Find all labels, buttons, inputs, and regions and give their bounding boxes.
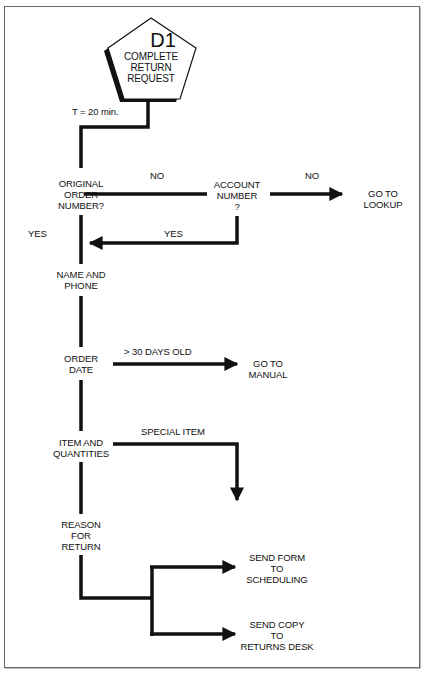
start-node-label: COMPLETE RETURN REQUEST <box>118 51 184 84</box>
node-original-order: ORIGINAL ORDER NUMBER? <box>46 178 116 211</box>
node-line: PHONE <box>48 280 114 291</box>
edge-label-yes-left: YES <box>28 228 47 239</box>
flowchart-connectors <box>0 0 424 673</box>
node-line: SCHEDULING <box>240 574 314 585</box>
node-reason-return: REASON FOR RETURN <box>54 519 108 552</box>
node-line: ORDER <box>56 353 106 364</box>
edge-label-no-1: NO <box>150 170 164 181</box>
node-line: MANUAL <box>243 369 293 380</box>
node-line: LOOKUP <box>356 199 410 210</box>
node-line: FOR <box>54 530 108 541</box>
edge-reason-split <box>81 555 152 598</box>
node-line: RETURNS DESK <box>234 641 320 652</box>
node-line: REASON <box>54 519 108 530</box>
start-line-2: RETURN <box>118 62 184 73</box>
node-go-manual: GO TO MANUAL <box>243 358 293 380</box>
node-send-returns: SEND COPY TO RETURNS DESK <box>234 619 320 652</box>
node-account-number: ACCOUNT NUMBER ? <box>204 179 270 212</box>
node-line: NAME AND <box>48 269 114 280</box>
start-line-1: COMPLETE <box>118 51 184 62</box>
node-send-scheduling: SEND FORM TO SCHEDULING <box>240 552 314 585</box>
node-line: QUANTITIES <box>46 448 116 459</box>
time-label: T = 20 min. <box>72 106 119 117</box>
node-line: NUMBER? <box>46 200 116 211</box>
node-line: RETURN <box>54 541 108 552</box>
node-order-date: ORDER DATE <box>56 353 106 375</box>
node-line: DATE <box>56 364 106 375</box>
node-line: TO <box>234 630 320 641</box>
node-line: SEND COPY <box>234 619 320 630</box>
edge-label-no-2: NO <box>305 170 319 181</box>
node-line: ORIGINAL <box>46 178 116 189</box>
node-line: ? <box>204 201 270 212</box>
start-node-code: D1 <box>133 30 193 50</box>
edge-label-special-item: SPECIAL ITEM <box>141 426 205 437</box>
edge-label-over-30: > 30 DAYS OLD <box>124 346 191 357</box>
node-item-quantities: ITEM AND QUANTITIES <box>46 437 116 459</box>
node-line: NUMBER <box>204 190 270 201</box>
node-line: ACCOUNT <box>204 179 270 190</box>
node-line: SEND FORM <box>240 552 314 563</box>
node-line: TO <box>240 563 314 574</box>
node-line: ITEM AND <box>46 437 116 448</box>
node-line: GO TO <box>243 358 293 369</box>
edge-label-yes-return: YES <box>164 228 183 239</box>
start-line-3: REQUEST <box>118 73 184 84</box>
node-go-lookup: GO TO LOOKUP <box>356 188 410 210</box>
node-line: GO TO <box>356 188 410 199</box>
node-line: ORDER <box>46 189 116 200</box>
node-name-phone: NAME AND PHONE <box>48 269 114 291</box>
edge-special-item <box>113 444 237 500</box>
